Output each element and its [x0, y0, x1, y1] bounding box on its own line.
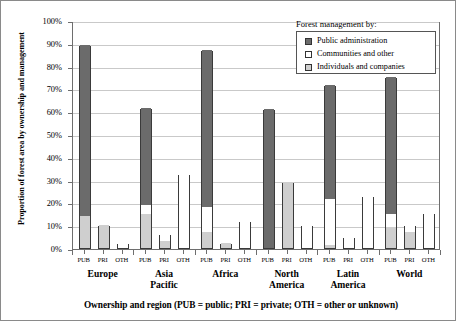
gridline: [73, 136, 439, 137]
group-label-line2: America: [303, 279, 393, 290]
gridline: [73, 113, 439, 114]
gridline: [73, 204, 439, 205]
bar-asia-pacific-pri: [159, 235, 171, 249]
x-tick-mark: [103, 250, 104, 254]
x-group-separator: [256, 250, 257, 255]
x-tick-mark: [428, 250, 429, 254]
x-tick-mark: [164, 250, 165, 254]
bar-segment-individuals: [325, 245, 335, 248]
bar-africa-pub: [201, 51, 213, 249]
x-tick-mark: [145, 250, 146, 254]
y-tick-label: 40%: [28, 155, 62, 163]
bar-segment-public: [386, 77, 396, 214]
bar-segment-communities: [424, 213, 434, 248]
group-label-line1: World: [364, 268, 454, 279]
y-tick-label: 100%: [28, 18, 62, 26]
bar-segment-public: [202, 50, 212, 207]
bar-segment-individuals: [202, 232, 212, 248]
bar-europe-pub: [79, 46, 91, 249]
x-tick-mark: [268, 250, 269, 254]
x-tick-label-oth: OTH: [354, 256, 380, 263]
x-tick-mark: [244, 250, 245, 254]
y-tick-label: 60%: [28, 109, 62, 117]
legend-swatch-icon: [305, 64, 312, 71]
bar-europe-pri: [98, 226, 110, 249]
x-tick-label-oth: OTH: [170, 256, 196, 263]
x-tick-mark: [287, 250, 288, 254]
x-tick-mark: [122, 250, 123, 254]
bar-segment-communities: [405, 225, 415, 232]
bar-north-america-pri: [282, 183, 294, 249]
y-tick-label: 80%: [28, 64, 62, 72]
x-tick-mark: [306, 250, 307, 254]
x-tick-mark: [84, 250, 85, 254]
x-tick-mark: [348, 250, 349, 254]
legend-swatch-icon: [305, 38, 312, 45]
bar-segment-communities: [302, 225, 312, 248]
bar-asia-pacific-pub: [140, 109, 152, 249]
x-group-separator: [379, 250, 380, 255]
bar-world-pri: [404, 226, 416, 249]
bar-latin-america-pub: [324, 86, 336, 249]
x-group-separator: [195, 250, 196, 255]
bar-segment-public: [325, 85, 335, 199]
x-tick-mark: [329, 250, 330, 254]
forest-ownership-chart: Proportion of forest area by ownership a…: [0, 0, 457, 322]
legend-label: Communities and other: [317, 48, 394, 60]
x-tick-mark: [409, 250, 410, 254]
x-tick-mark: [390, 250, 391, 254]
y-tick-label: 90%: [28, 41, 62, 49]
bar-europe-oth: [117, 244, 129, 249]
x-group-separator: [133, 250, 134, 255]
y-tick-label: 30%: [28, 178, 62, 186]
bar-segment-public: [141, 108, 151, 205]
group-label-world: World: [364, 268, 454, 279]
bar-africa-pri: [220, 244, 232, 249]
bar-segment-communities: [141, 205, 151, 214]
legend-label: Individuals and companies: [317, 61, 405, 73]
x-group-separator: [317, 250, 318, 255]
bar-segment-communities: [386, 214, 396, 228]
x-tick-label-oth: OTH: [293, 256, 319, 263]
legend-label: Public administration: [317, 35, 387, 47]
legend-title: Forest management by:: [296, 19, 377, 29]
x-tick-mark: [225, 250, 226, 254]
bar-segment-communities: [363, 196, 373, 248]
x-tick-mark: [367, 250, 368, 254]
y-tick-label: 10%: [28, 223, 62, 231]
bar-segment-communities: [325, 199, 335, 245]
bar-latin-america-oth: [362, 197, 374, 249]
bar-segment-individuals: [221, 243, 231, 248]
legend: Public administrationCommunities and oth…: [296, 31, 436, 74]
x-tick-label-oth: OTH: [231, 256, 257, 263]
y-tick-label: 20%: [28, 200, 62, 208]
bar-segment-individuals: [99, 225, 109, 248]
bar-north-america-pub: [263, 110, 275, 249]
x-tick-label-oth: OTH: [109, 256, 135, 263]
bar-segment-individuals: [80, 216, 90, 248]
gridline: [73, 182, 439, 183]
bar-segment-individuals: [283, 182, 293, 248]
gridline: [73, 159, 439, 160]
bar-africa-oth: [239, 222, 251, 249]
bar-segment-communities: [344, 237, 354, 248]
bar-segment-communities: [202, 207, 212, 232]
x-tick-mark: [183, 250, 184, 254]
x-tick-mark: [206, 250, 207, 254]
bar-segment-communities: [240, 221, 250, 248]
legend-swatch-icon: [305, 51, 312, 58]
bar-latin-america-pri: [343, 238, 355, 249]
bar-segment-individuals: [386, 227, 396, 248]
bar-segment-individuals: [160, 241, 170, 248]
bar-segment-individuals: [405, 232, 415, 248]
gridline: [73, 90, 439, 91]
y-tick-label: 50%: [28, 132, 62, 140]
bar-asia-pacific-oth: [178, 175, 190, 249]
x-group-separator: [72, 250, 73, 255]
gridline: [73, 22, 439, 23]
gridline: [73, 227, 439, 228]
bar-segment-communities: [118, 243, 128, 248]
y-tick-label: 70%: [28, 86, 62, 94]
bar-world-oth: [423, 214, 435, 249]
x-group-separator: [440, 250, 441, 255]
